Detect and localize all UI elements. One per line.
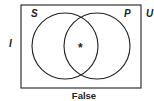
set-p-circle — [64, 13, 130, 79]
outside-label: I — [9, 39, 12, 49]
caption-label: False — [0, 91, 154, 101]
universe-label: U — [146, 9, 153, 19]
intersection-asterisk: * — [78, 42, 83, 54]
set-s-label: S — [31, 9, 38, 19]
set-p-label: P — [124, 9, 131, 19]
set-s-circle — [32, 13, 98, 79]
